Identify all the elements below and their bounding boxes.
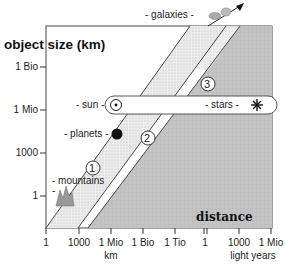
- region-1-label: 1: [89, 162, 95, 174]
- x-axis-title: distance: [196, 210, 253, 224]
- sun-label: - sun -: [76, 99, 104, 110]
- region-3-label: 3: [204, 78, 210, 90]
- x-axis-ticks: [46, 228, 271, 234]
- y-axis-ticks: [40, 67, 46, 196]
- x-tick-1-mio-ly: 1 Mio: [259, 237, 283, 248]
- mountains-label: - mountains: [52, 175, 104, 186]
- y-tick-1: 1: [0, 190, 38, 201]
- galaxies-icon: [209, 8, 231, 20]
- y-tick-1-mio: 1 Mio: [0, 104, 38, 115]
- x-tick-1-ly: 1: [202, 237, 208, 248]
- y-axis-title: object size (km): [4, 37, 105, 52]
- galaxies-label: - galaxies -: [145, 9, 194, 20]
- object-size-vs-distance-diagram: object size (km) 1 Bio 1 Mio 1000 1 1 10…: [0, 0, 286, 267]
- x-tick-1000-km: 1000: [68, 237, 90, 248]
- mountains-dash: -: [52, 185, 55, 196]
- stars-label: - stars -: [205, 99, 239, 110]
- y-tick-1-bio: 1 Bio: [0, 61, 38, 72]
- region-2-label: 2: [144, 132, 150, 144]
- planet-icon: [112, 129, 123, 140]
- x-unit-km: km: [104, 250, 117, 261]
- x-tick-1-bio-km: 1 Bio: [132, 237, 155, 248]
- x-tick-1000-ly: 1000: [228, 237, 250, 248]
- x-tick-1-mio-km: 1 Mio: [99, 237, 123, 248]
- x-unit-light-years: light years: [230, 250, 276, 261]
- sun-icon: [111, 100, 122, 111]
- x-tick-1-tio-km: 1 Tio: [164, 237, 186, 248]
- planets-label: - planets -: [64, 128, 108, 139]
- y-tick-1000: 1000: [0, 147, 38, 158]
- x-tick-1-km: 1: [43, 237, 49, 248]
- arrow-head-icon: [236, 3, 244, 11]
